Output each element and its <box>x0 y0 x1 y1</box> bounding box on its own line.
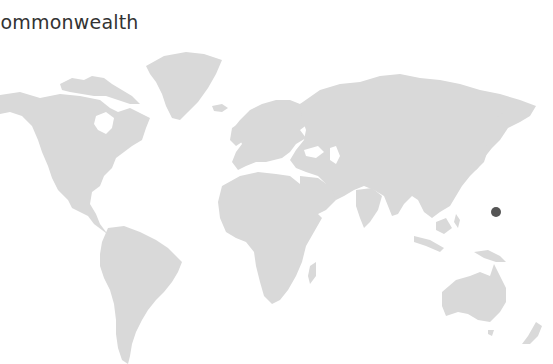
location-marker[interactable] <box>491 207 501 217</box>
land-masses <box>0 52 542 364</box>
world-map <box>0 0 553 364</box>
continent-south-america[interactable] <box>100 226 182 364</box>
greenland <box>146 52 222 120</box>
map-markers <box>491 207 501 217</box>
madagascar <box>308 262 316 284</box>
continent-north-america[interactable] <box>0 92 150 240</box>
new-zealand <box>522 322 542 344</box>
indonesia <box>414 236 444 252</box>
iceland <box>212 104 228 112</box>
continent-australia[interactable] <box>442 264 506 322</box>
india <box>356 188 382 228</box>
new-guinea <box>474 250 506 262</box>
